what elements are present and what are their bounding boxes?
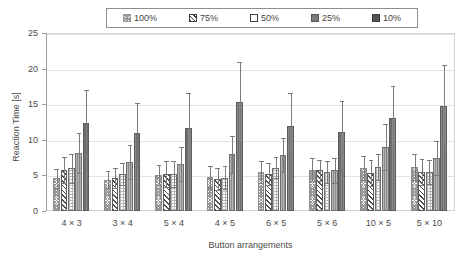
pattern-swatch-75-icon — [189, 14, 197, 22]
error-bar-stem — [166, 161, 167, 187]
y-tick-label: 5 — [16, 170, 38, 180]
y-tick-mark-0 — [42, 211, 46, 212]
error-bar-stem — [232, 136, 233, 173]
error-bar-cap-upper — [128, 145, 133, 146]
error-bar-stem — [422, 159, 423, 185]
error-bar-stem — [320, 160, 321, 181]
error-bar-stem — [130, 145, 131, 179]
error-bar-stem — [312, 158, 313, 181]
error-bar-cap-lower — [120, 185, 125, 186]
y-tick-label: 15 — [16, 99, 38, 109]
legend-item-100[interactable]: 100% — [123, 14, 157, 23]
error-bar-stem — [57, 169, 58, 188]
error-bar-cap-lower — [157, 185, 162, 186]
error-bar-cap-upper — [179, 147, 184, 148]
y-tick-mark-15 — [42, 104, 46, 105]
error-bar-stem — [64, 157, 65, 183]
error-bar-cap-upper — [391, 86, 396, 87]
y-tick-label: 0 — [16, 206, 38, 216]
error-bar-cap-lower — [54, 188, 59, 189]
error-bar-cap-upper — [186, 93, 191, 94]
error-bar-stem — [225, 166, 226, 189]
error-bar-cap-upper — [412, 154, 417, 155]
error-bar-stem — [137, 103, 138, 163]
error-bar-cap-lower — [361, 180, 366, 181]
x-tick-label: 6 × 5 — [266, 218, 286, 228]
error-bar-cap-upper — [434, 141, 439, 142]
error-bar-stem — [378, 154, 379, 180]
x-axis-title: Button arrangements — [46, 240, 455, 250]
error-bar-cap-lower — [128, 179, 133, 180]
error-bar-cap-upper — [62, 157, 67, 158]
error-bar-cap-lower — [186, 163, 191, 164]
pattern-swatch-25-icon — [311, 14, 319, 22]
error-bar-stem — [159, 165, 160, 185]
x-tick-label: 3 × 4 — [113, 218, 133, 228]
error-bar-stem — [86, 90, 87, 156]
error-bar-cap-upper — [427, 160, 432, 161]
error-bar-cap-upper — [77, 133, 82, 134]
y-tick-mark-25 — [42, 33, 46, 34]
error-bar-cap-upper — [230, 136, 235, 137]
legend-item-10[interactable]: 10% — [372, 14, 401, 23]
error-bar-cap-lower — [69, 183, 74, 184]
error-bar-cap-lower — [288, 158, 293, 159]
error-bar-cap-upper — [310, 158, 315, 159]
error-bar-cap-upper — [420, 159, 425, 160]
x-tick-label: 10 × 5 — [366, 218, 391, 228]
error-bar-cap-upper — [369, 160, 374, 161]
bar-chart: 100%75%50%25%10% Reaction Time [s] Butto… — [0, 0, 469, 275]
error-bar-cap-lower — [442, 146, 447, 147]
error-bar-cap-lower — [77, 173, 82, 174]
error-bar-cap-lower — [317, 181, 322, 182]
error-bar-stem — [72, 154, 73, 182]
legend-label: 50% — [261, 14, 279, 23]
legend-label: 75% — [200, 14, 218, 23]
x-tick-label: 5 × 10 — [417, 218, 442, 228]
error-bar-stem — [276, 157, 277, 178]
error-bar-stem — [283, 138, 284, 172]
error-bar-cap-upper — [215, 168, 220, 169]
error-bar-cap-lower — [383, 170, 388, 171]
legend-item-75[interactable]: 75% — [189, 14, 218, 23]
error-bar-cap-upper — [106, 171, 111, 172]
error-bar-cap-lower — [434, 175, 439, 176]
error-bar-cap-lower — [274, 178, 279, 179]
y-axis-title: Reaction Time [s] — [11, 67, 21, 187]
error-bar-cap-upper — [317, 160, 322, 161]
y-tick-label: 20 — [16, 64, 38, 74]
error-bar-cap-upper — [120, 163, 125, 164]
error-bar-stem — [386, 124, 387, 170]
error-bar-cap-upper — [376, 154, 381, 155]
error-bar-cap-lower — [164, 187, 169, 188]
error-bar-stem — [269, 163, 270, 186]
pattern-swatch-10-icon — [372, 14, 380, 22]
error-bar-cap-upper — [259, 161, 264, 162]
error-bar-cap-upper — [281, 138, 286, 139]
error-bar-cap-upper — [266, 163, 271, 164]
legend-item-50[interactable]: 50% — [250, 14, 279, 23]
x-tick-label: 5 × 6 — [317, 218, 337, 228]
error-bar-cap-upper — [340, 101, 345, 102]
error-bar-stem — [393, 86, 394, 150]
legend-label: 10% — [383, 14, 401, 23]
gridline-25 — [47, 34, 454, 35]
error-bar-cap-upper — [223, 166, 228, 167]
legend-item-25[interactable]: 25% — [311, 14, 340, 23]
error-bar-stem — [429, 160, 430, 184]
y-tick-mark-20 — [42, 69, 46, 70]
pattern-swatch-50-icon — [250, 14, 258, 22]
chart-legend: 100%75%50%25%10% — [106, 8, 418, 28]
error-bar-cap-lower — [106, 188, 111, 189]
y-tick-label: 10 — [16, 135, 38, 145]
x-tick-label: 4 × 3 — [61, 218, 81, 228]
legend-label: 100% — [134, 14, 157, 23]
error-bar-cap-lower — [223, 189, 228, 190]
error-bar-cap-lower — [171, 187, 176, 188]
error-bar-cap-upper — [442, 65, 447, 66]
error-bar-stem — [342, 101, 343, 162]
error-bar-stem — [335, 158, 336, 184]
error-bar-cap-lower — [135, 163, 140, 164]
error-bar-stem — [108, 171, 109, 188]
error-bar-cap-lower — [113, 188, 118, 189]
